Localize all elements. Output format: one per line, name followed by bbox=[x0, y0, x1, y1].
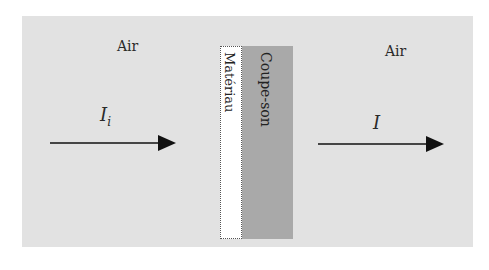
material-layer-label: Matériau bbox=[222, 52, 237, 112]
left-medium-label: Air bbox=[117, 38, 138, 54]
incident-arrow-icon bbox=[48, 134, 178, 152]
sound-barrier-layer-label: Coupe-son bbox=[258, 52, 274, 127]
incident-intensity-label: Ii bbox=[100, 104, 111, 129]
right-medium-label: Air bbox=[385, 43, 406, 59]
transmitted-arrow-icon bbox=[316, 135, 446, 153]
incident-intensity-subscript: i bbox=[107, 115, 111, 129]
transmitted-intensity-label: I bbox=[373, 112, 380, 133]
